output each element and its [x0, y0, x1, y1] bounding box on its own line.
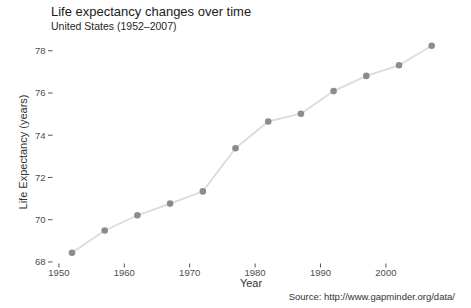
data-point-1972: [200, 188, 207, 195]
y-tick-label: 72: [35, 172, 46, 183]
y-tick-label: 76: [35, 87, 46, 98]
x-tick-label: 1950: [48, 267, 69, 278]
x-tick-label: 1960: [114, 267, 135, 278]
life-expectancy-line: [72, 46, 432, 253]
data-point-1982: [265, 118, 272, 125]
data-point-1952: [69, 249, 76, 256]
line-chart-plot: 195019601970198019902000687072747678: [0, 0, 471, 308]
data-point-1967: [167, 200, 174, 207]
data-point-1997: [363, 73, 370, 80]
x-tick-label: 1990: [310, 267, 331, 278]
data-point-2002: [396, 62, 403, 69]
data-point-1962: [134, 212, 141, 219]
data-point-1957: [101, 227, 108, 234]
data-point-1977: [232, 145, 239, 152]
y-tick-label: 74: [35, 130, 46, 141]
x-tick-label: 2000: [375, 267, 396, 278]
y-tick-label: 68: [35, 256, 46, 267]
source-caption: Source: http://www.gapminder.org/data/: [289, 291, 455, 302]
x-tick-label: 1970: [179, 267, 200, 278]
data-point-1987: [298, 110, 305, 117]
data-point-2007: [428, 42, 435, 49]
x-axis-label: Year: [240, 277, 262, 289]
data-point-1992: [330, 88, 337, 95]
y-tick-label: 70: [35, 214, 46, 225]
y-tick-label: 78: [35, 45, 46, 56]
line-chart-figure: Life expectancy changes over time United…: [0, 0, 471, 308]
